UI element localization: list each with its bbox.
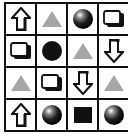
grid-cell-r2c1[interactable] xyxy=(37,68,68,100)
cube-icon xyxy=(103,10,125,28)
square-icon xyxy=(73,106,93,124)
cube-icon xyxy=(10,42,32,60)
triangle-icon xyxy=(41,10,63,28)
sphere-icon xyxy=(103,104,125,126)
grid-cell-r0c1[interactable] xyxy=(37,4,68,36)
sphere-icon xyxy=(41,104,63,126)
grid-cell-r0c0[interactable] xyxy=(6,4,37,36)
sphere-icon xyxy=(72,8,94,30)
grid-cell-r0c2[interactable] xyxy=(68,4,99,36)
grid-cell-r0c3[interactable] xyxy=(99,4,128,36)
grid-cell-r2c3[interactable] xyxy=(99,68,128,100)
arrow-up-icon xyxy=(11,7,31,31)
puzzle-grid xyxy=(4,2,128,132)
circle-icon xyxy=(41,40,63,62)
grid-cell-r1c0[interactable] xyxy=(6,36,37,68)
arrow-up-icon xyxy=(11,103,31,127)
grid-cell-r2c2[interactable] xyxy=(68,68,99,100)
grid-cell-r3c0[interactable] xyxy=(6,100,37,132)
arrow-down-icon xyxy=(73,71,93,95)
cube-icon xyxy=(41,74,63,92)
grid-cell-r1c1[interactable] xyxy=(37,36,68,68)
grid-cell-r2c0[interactable] xyxy=(6,68,37,100)
arrow-down-icon xyxy=(104,39,124,63)
grid-cell-r1c3[interactable] xyxy=(99,36,128,68)
grid-cell-r3c2[interactable] xyxy=(68,100,99,132)
triangle-icon xyxy=(10,74,32,92)
triangle-icon xyxy=(72,42,94,60)
grid-cell-r3c3[interactable] xyxy=(99,100,128,132)
grid-cell-r3c1[interactable] xyxy=(37,100,68,132)
triangle-icon xyxy=(103,74,125,92)
grid-cell-r1c2[interactable] xyxy=(68,36,99,68)
